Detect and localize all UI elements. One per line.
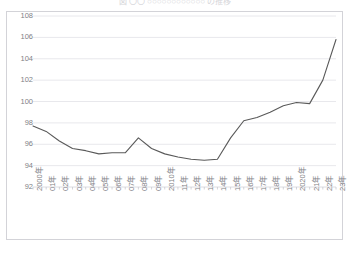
x-axis-labels: 2000年01年02年03年04年05年06年07年08年09年2010年11年…	[7, 12, 344, 241]
chart-frame: 10810610410210098969492 2000年01年02年03年04…	[6, 11, 343, 240]
x-axis-tick-label: 07年	[128, 176, 136, 191]
plot-area: 10810610410210098969492 2000年01年02年03年04…	[7, 12, 344, 241]
x-axis-tick-label: 2020年	[299, 167, 307, 191]
x-axis-tick-label: 2000年	[36, 167, 44, 191]
chart-title: 図 〇〇 ○○○○○○○○○○○○ の推移	[0, 0, 350, 7]
x-axis-tick-label: 2010年	[168, 167, 176, 191]
x-axis-tick-label: 11年	[181, 176, 189, 191]
x-axis-tick-label: 15年	[234, 176, 242, 191]
x-axis-tick-label: 09年	[155, 176, 163, 191]
x-axis-tick-label: 22年	[326, 176, 334, 191]
x-axis-tick-label: 19年	[286, 176, 294, 191]
x-axis-tick-label: 06年	[115, 176, 123, 191]
x-axis-tick-label: 17年	[260, 176, 268, 191]
x-axis-tick-label: 02年	[62, 176, 70, 191]
x-axis-tick-label: 18年	[273, 176, 281, 191]
x-axis-tick-label: 08年	[141, 176, 149, 191]
x-axis-tick-label: 01年	[49, 176, 57, 191]
chart-title-strip: 図 〇〇 ○○○○○○○○○○○○ の推移	[0, 0, 350, 11]
x-axis-tick-label: 21年	[313, 176, 321, 191]
x-axis-tick-label: 04年	[89, 176, 97, 191]
x-axis-tick-label: 14年	[220, 176, 228, 191]
x-axis-tick-label: 16年	[247, 176, 255, 191]
x-axis-tick-label: 03年	[76, 176, 84, 191]
x-axis-tick-label: 23年	[339, 176, 347, 191]
x-axis-tick-label: 12年	[194, 176, 202, 191]
x-axis-tick-label: 13年	[207, 176, 215, 191]
x-axis-tick-label: 05年	[102, 176, 110, 191]
